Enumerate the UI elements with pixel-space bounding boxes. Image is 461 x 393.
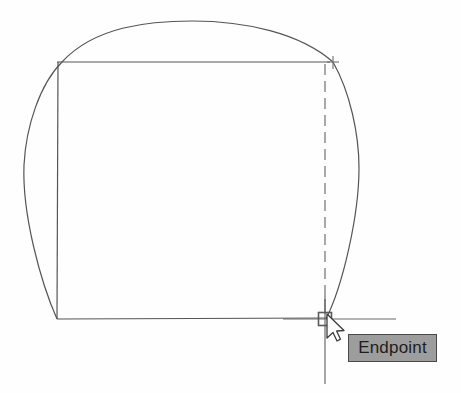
rectangle-left-edge[interactable] — [57, 62, 58, 319]
geometry-group — [24, 21, 359, 319]
endpoint-tooltip: Endpoint — [348, 334, 437, 362]
right-arc[interactable] — [326, 62, 359, 319]
top-arc[interactable] — [62, 21, 333, 62]
cad-viewport[interactable]: Endpoint — [0, 0, 461, 393]
left-arc[interactable] — [24, 62, 62, 319]
arrow-pointer — [327, 314, 344, 341]
